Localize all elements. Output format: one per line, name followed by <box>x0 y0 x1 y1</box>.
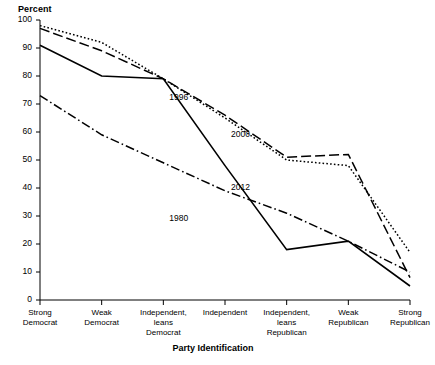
series-line-2000 <box>40 28 410 277</box>
x-axis-title: Party Identification <box>0 343 426 353</box>
series-line-1996 <box>40 26 410 253</box>
data-lines <box>40 26 410 286</box>
